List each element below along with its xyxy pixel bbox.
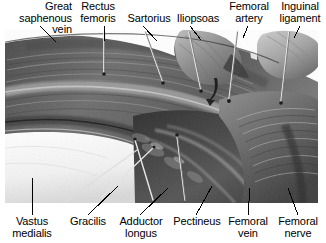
label-inguinal-ligament: Inguinal ligament [274, 1, 326, 24]
label-gracilis: Gracilis [62, 216, 114, 228]
label-femoral-artery: Femoral artery [225, 1, 273, 24]
dissection-photograph [5, 30, 318, 203]
label-rectus-femoris: Rectus femoris [76, 1, 120, 24]
label-adductor-longus: Adductor longus [114, 216, 168, 239]
label-great-saphenous-vein: Great saphenous vein [0, 1, 72, 36]
label-sartorius: Sartorius [125, 13, 173, 25]
label-femoral-nerve: Femoral nerve [274, 216, 322, 239]
label-femoral-vein: Femoral vein [224, 216, 272, 239]
label-pectineus: Pectineus [170, 216, 224, 228]
label-vastus-medialis: Vastus medialis [6, 216, 58, 239]
anatomy-figure: Great saphenous vein Rectus femoris Sart… [0, 0, 326, 243]
photo-canvas [5, 30, 318, 203]
label-iliopsoas: Iliopsoas [174, 13, 222, 25]
